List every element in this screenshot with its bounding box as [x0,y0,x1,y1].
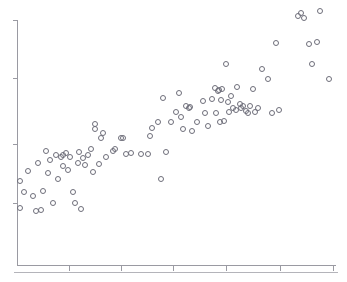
data-point [31,194,36,199]
data-point [307,42,312,47]
data-point [18,179,23,184]
data-point [181,127,186,132]
data-point [34,209,39,214]
data-point [41,189,46,194]
data-point [61,164,66,169]
data-point [79,207,84,212]
data-point [86,153,91,158]
data-point [146,152,151,157]
data-point [195,120,200,125]
data-point [39,208,44,213]
data-point [161,96,166,101]
data-point [124,152,129,157]
data-point [139,152,144,157]
data-point [68,155,73,160]
data-point [66,168,71,173]
data-point [220,87,225,92]
data-point [226,100,231,105]
data-point [210,97,215,102]
data-point-group [18,9,332,214]
tick-group [13,21,334,272]
data-point [296,14,301,19]
data-point [71,190,76,195]
data-point [169,120,174,125]
data-point [156,120,161,125]
data-point [190,129,195,134]
data-point [251,87,256,92]
data-point [36,161,41,166]
data-point [148,134,153,139]
data-point [310,62,315,67]
data-point [266,77,271,82]
data-point [248,104,253,109]
data-point [327,77,332,82]
data-point [203,111,208,116]
data-point [164,150,169,155]
data-point [89,147,94,152]
data-point [179,115,184,120]
data-point [235,85,240,90]
data-point [302,16,307,21]
data-point [260,67,265,72]
data-point [227,110,232,115]
data-point [93,127,98,132]
scatter-plot-figure [0,0,347,282]
data-point [26,169,31,174]
data-point [99,136,104,141]
data-point [274,41,279,46]
data-point [18,206,23,211]
data-point [22,190,27,195]
data-point [229,94,234,99]
data-point [93,122,98,127]
data-point [318,9,323,14]
data-point [270,111,275,116]
data-point [97,162,102,167]
data-point [104,155,109,160]
data-point [46,171,51,176]
chart-canvas [0,0,347,282]
data-point [101,131,106,136]
data-point [54,153,59,158]
data-point [219,98,224,103]
data-point [91,170,96,175]
data-point [224,62,229,67]
data-point [56,177,61,182]
data-point [76,161,81,166]
data-point [201,99,206,104]
data-point [299,11,304,16]
data-point [73,201,78,206]
data-point [83,163,88,168]
data-point [277,108,282,113]
data-point [44,149,49,154]
data-point [159,177,164,182]
data-point [129,151,134,156]
axis-group [17,20,336,266]
data-point [150,126,155,131]
data-point [214,111,219,116]
data-point [256,106,261,111]
data-point [81,156,86,161]
data-point [174,110,179,115]
data-point [77,150,82,155]
data-point [206,124,211,129]
data-point [315,40,320,45]
data-point [177,91,182,96]
data-point [48,158,53,163]
data-point [51,201,56,206]
